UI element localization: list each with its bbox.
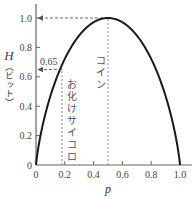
reference-label-char: ン [96, 79, 106, 90]
reference-label-char: サ [67, 115, 77, 126]
y-axis-title: H （ビット） [2, 50, 16, 107]
reference-label-char: お [67, 79, 77, 90]
reference-label-char: イ [96, 67, 106, 78]
y-axis-unit: （ビット） [3, 62, 15, 107]
y-tick-label: 0.6 [20, 71, 33, 82]
reference-label-char: ロ [67, 151, 77, 162]
x-tick-label: 0.6 [116, 169, 129, 180]
y-tick-label: 0.8 [20, 42, 33, 53]
entropy-chart: 00.20.40.60.81.000.20.40.60.81.0pお化けサイコロ… [0, 0, 196, 202]
x-tick-label: 0.2 [59, 169, 72, 180]
y-axis-symbol: H [2, 50, 16, 62]
reference-label-char: コ [67, 139, 77, 150]
value-label-0.65: 0.65 [40, 56, 58, 67]
reference-label-char: コ [96, 55, 106, 66]
reference-label-char: イ [67, 127, 77, 138]
x-tick-label: 1.0 [174, 169, 187, 180]
x-axis-title: p [104, 182, 111, 196]
y-tick-label: 0.4 [20, 101, 33, 112]
x-tick-label: 0 [34, 169, 39, 180]
y-tick-label: 0 [27, 160, 32, 171]
x-tick-label: 0.4 [87, 169, 100, 180]
x-tick-label: 0.8 [145, 169, 158, 180]
reference-label-char: 化 [67, 90, 77, 102]
reference-label-char: け [67, 103, 77, 114]
y-tick-label: 0.2 [20, 130, 33, 141]
y-tick-label: 1.0 [20, 13, 33, 24]
plot-area: 00.20.40.60.81.000.20.40.60.81.0pお化けサイコロ… [20, 4, 193, 196]
